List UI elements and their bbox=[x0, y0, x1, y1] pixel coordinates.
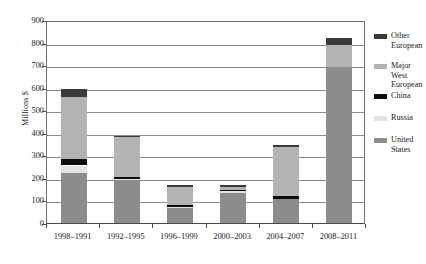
stacked-bar-chart: Millions $ 0100200300400500600700800900 … bbox=[0, 0, 426, 264]
x-axis-tick-mark bbox=[365, 224, 366, 228]
bar-segment bbox=[167, 207, 193, 208]
gridline bbox=[47, 180, 364, 181]
bar-segment bbox=[220, 191, 246, 193]
bar-segment bbox=[114, 180, 140, 223]
x-axis-tick-mark bbox=[99, 224, 100, 228]
legend-swatch bbox=[374, 138, 387, 143]
legend-label: China bbox=[391, 91, 411, 101]
bar-segment bbox=[273, 147, 299, 196]
gridline bbox=[47, 157, 364, 158]
bar-segment bbox=[220, 190, 246, 192]
bar-segment bbox=[326, 45, 352, 68]
x-axis-tick-label: 2008–2011 bbox=[306, 232, 370, 242]
y-axis-tick-label: 500 bbox=[4, 107, 44, 115]
legend-swatch bbox=[374, 64, 387, 69]
bar-4 bbox=[220, 185, 246, 223]
gridline bbox=[47, 67, 364, 68]
gridline bbox=[47, 202, 364, 203]
x-axis-tick-mark bbox=[259, 224, 260, 228]
gridline bbox=[47, 135, 364, 136]
y-axis-tick-label: 100 bbox=[4, 197, 44, 205]
bar-segment bbox=[220, 193, 246, 223]
x-axis-tick-mark bbox=[206, 224, 207, 228]
y-axis-tick-label: 400 bbox=[4, 130, 44, 138]
y-axis-tick-label: 600 bbox=[4, 85, 44, 93]
legend-item[interactable]: Russia bbox=[374, 113, 413, 123]
x-axis-tick-mark bbox=[46, 224, 47, 228]
legend-label: Major West European bbox=[391, 61, 426, 90]
bar-segment bbox=[167, 205, 193, 207]
bar-segment bbox=[61, 173, 87, 223]
bar-segment bbox=[114, 137, 140, 176]
legend-item[interactable]: China bbox=[374, 91, 411, 101]
plot-area bbox=[46, 21, 365, 224]
bar-6 bbox=[326, 38, 352, 223]
legend-item[interactable]: United States bbox=[374, 135, 413, 154]
bar-3 bbox=[167, 185, 193, 223]
bar-segment bbox=[61, 166, 87, 174]
legend-item[interactable]: Other European bbox=[374, 31, 422, 50]
gridline bbox=[47, 112, 364, 113]
y-axis-tick-label: 300 bbox=[4, 152, 44, 160]
legend-label: Other European bbox=[391, 31, 422, 50]
gridline bbox=[47, 45, 364, 46]
bar-segment bbox=[61, 159, 87, 166]
bar-segment bbox=[220, 185, 246, 187]
legend-label: Russia bbox=[391, 113, 413, 123]
legend-swatch bbox=[374, 116, 387, 121]
bar-1 bbox=[61, 89, 87, 223]
bar-segment bbox=[273, 145, 299, 148]
bar-segment bbox=[61, 97, 87, 159]
bar-segment bbox=[114, 179, 140, 180]
y-axis-tick-label: 700 bbox=[4, 62, 44, 70]
y-axis-tick-label: 200 bbox=[4, 175, 44, 183]
bar-segment bbox=[114, 136, 140, 138]
x-axis-tick-mark bbox=[152, 224, 153, 228]
legend-swatch bbox=[374, 94, 387, 99]
bar-segment bbox=[167, 208, 193, 223]
legend-item[interactable]: Major West European bbox=[374, 61, 426, 90]
gridline bbox=[47, 90, 364, 91]
legend-swatch bbox=[374, 34, 387, 39]
bar-segment bbox=[220, 187, 246, 190]
y-axis-tick-label: 0 bbox=[4, 220, 44, 228]
bar-segment bbox=[326, 38, 352, 45]
y-axis-tick-label: 800 bbox=[4, 40, 44, 48]
bar-segment bbox=[114, 177, 140, 179]
bar-segment bbox=[326, 67, 352, 223]
bar-2 bbox=[114, 136, 140, 224]
bar-segment bbox=[167, 187, 193, 205]
x-axis-tick-mark bbox=[312, 224, 313, 228]
bar-segment bbox=[273, 196, 299, 199]
bar-segment bbox=[61, 89, 87, 97]
bar-segment bbox=[273, 199, 299, 223]
bar-5 bbox=[273, 145, 299, 223]
legend-label: United States bbox=[391, 135, 413, 154]
bar-segment bbox=[167, 185, 193, 187]
y-axis-tick-label: 900 bbox=[4, 17, 44, 25]
